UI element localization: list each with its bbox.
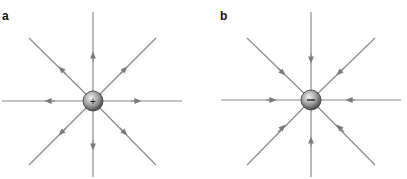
positive-charge: + xyxy=(83,91,103,111)
field-lines-diagram: + xyxy=(0,0,407,179)
negative-charge xyxy=(301,90,321,110)
svg-text:+: + xyxy=(90,96,96,107)
